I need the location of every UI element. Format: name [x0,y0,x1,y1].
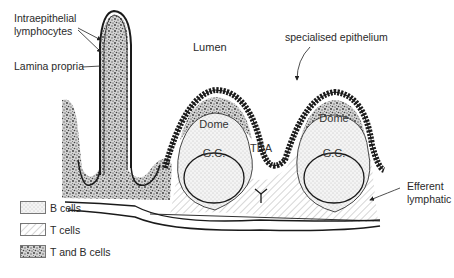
legend-item-t-and-b-cells: T and B cells [20,245,111,258]
label-dome-1: Dome [199,118,228,130]
legend-item-t-cells: T cells [20,223,80,236]
label-lymphocytes: lymphocytes [14,25,72,37]
hatch-swatch-icon [20,223,46,236]
stipple-swatch-icon [20,201,46,214]
label-gc-1: G.C. [203,147,226,159]
legend-item-b-cells: B cells [20,201,81,214]
label-dome-2: Dome [319,112,348,124]
speckle-swatch-icon [20,245,46,258]
germinal-centre-1 [184,153,244,203]
label-lamina-propria: Lamina propria [14,60,84,72]
label-efferent: Efferent [407,180,444,192]
label-lymphatic: lymphatic [407,193,451,205]
lamina-propria-mass [62,15,172,200]
label-lumen: Lumen [193,41,227,53]
germinal-centre-2 [304,153,364,203]
label-intraepithelial: Intraepithelial [14,12,76,24]
label-tda: TDA [250,142,272,154]
label-specialised-epithelium: specialised epithelium [285,31,388,43]
label-gc-2: G.C. [323,147,346,159]
